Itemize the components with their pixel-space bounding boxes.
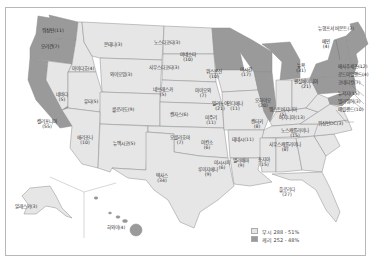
us-election-map	[0, 0, 373, 263]
label-wyoming: 와이오밍(3)	[110, 72, 133, 77]
label-nebraska: 네브래스카(5)	[153, 87, 173, 98]
label-minnesota: 미네소타(10)	[180, 52, 196, 63]
label-oklahoma: 오클라호마(7)	[170, 135, 190, 146]
label-pennsylvania: 펜실베이니아(21)	[294, 79, 318, 90]
callout-rhode-island: 로드아일랜드(4)	[338, 72, 369, 77]
label-georgia: 조지아(15)	[258, 157, 270, 168]
label-new-york: 뉴욕(31)	[296, 63, 305, 74]
label-kentucky: 켄터키(8)	[251, 119, 263, 130]
label-wisconsin: 위스콘신(10)	[206, 69, 222, 80]
state-new-mexico	[98, 124, 148, 172]
legend-item-kerry: 케리 252 - 48%	[251, 235, 299, 243]
state-hawaii	[130, 224, 142, 236]
label-nevada: 네바다(5)	[56, 92, 68, 103]
state-alaska	[22, 186, 72, 218]
label-texas: 텍사스(34)	[156, 173, 168, 184]
callout-maryland: 메릴랜드(10)	[338, 107, 363, 112]
callout-connecticut: 코네티컷(7)	[338, 80, 361, 85]
label-montana: 몬태나(3)	[104, 42, 123, 47]
label-new-mexico: 뉴멕시코(5)	[113, 141, 136, 146]
label-illinois: 일리노이(21)	[212, 101, 228, 112]
label-california: 캘리포니아(55)	[37, 119, 57, 130]
callout-dc: 워싱턴DC(3)	[318, 121, 343, 126]
label-tennessee: 테네시(11)	[232, 137, 253, 142]
label-north-carolina: 노스캐롤라이나(15)	[281, 128, 309, 139]
label-idaho: 아이다호(4)	[72, 66, 95, 71]
label-missouri: 미주리(11)	[205, 115, 217, 126]
label-utah: 유타(5)	[84, 99, 99, 104]
label-colorado: 콜로라도(9)	[112, 107, 135, 112]
state-arkansas	[228, 130, 264, 158]
label-west-virginia: 웨스트버지니아(5)	[269, 107, 297, 118]
label-indiana: 인디애나(11)	[227, 101, 243, 112]
label-south-carolina: 사우스캐롤라이나(8)	[269, 142, 301, 153]
kerry-swatch-icon	[251, 236, 258, 242]
label-washington: 워싱턴(11)	[42, 28, 63, 33]
callout-new-jersey: 뉴저지(15)	[338, 91, 359, 96]
label-maine: 메인(4)	[322, 39, 330, 50]
label-alabama: 앨라배마(9)	[233, 158, 249, 169]
callout-vt-nh: 뉴햄프셔 버몬트(3)	[318, 26, 354, 31]
label-alaska: 알래스카(3)	[15, 204, 38, 209]
label-iowa: 아이오와(7)	[195, 88, 211, 99]
label-south-dakota: 사우스다코타(3)	[149, 65, 180, 70]
label-arkansas: 아칸소(6)	[201, 140, 213, 151]
label-mississippi: 미시시피(6)	[214, 160, 230, 171]
state-montana	[82, 22, 164, 60]
legend-item-bush: 부시 288 - 51%	[251, 227, 299, 235]
label-oregon: 오리건(7)	[41, 44, 60, 49]
state-utah	[68, 72, 102, 112]
label-michigan: 미시간(17)	[240, 67, 252, 78]
label-kansas: 캔자스(6)	[170, 112, 189, 117]
label-arizona: 애리조나(10)	[77, 135, 93, 146]
legend: 부시 288 - 51% 케리 252 - 48%	[251, 227, 299, 243]
label-hawaii: 하와이(4)	[107, 225, 126, 230]
label-north-dakota: 노스다코타(3)	[154, 40, 181, 45]
callout-massachusetts: 매사추세츠(12)	[338, 64, 367, 69]
callout-delaware: 델라웨어(3)	[338, 99, 361, 104]
bush-swatch-icon	[251, 228, 258, 234]
label-florida: 플로리다(27)	[279, 187, 295, 198]
